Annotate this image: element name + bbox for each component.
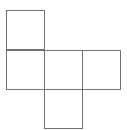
square-middle-left — [6, 50, 45, 90]
square-middle-center — [44, 50, 83, 90]
square-bottom — [44, 89, 83, 129]
square-middle-right — [82, 50, 121, 90]
square-top — [6, 10, 45, 50]
